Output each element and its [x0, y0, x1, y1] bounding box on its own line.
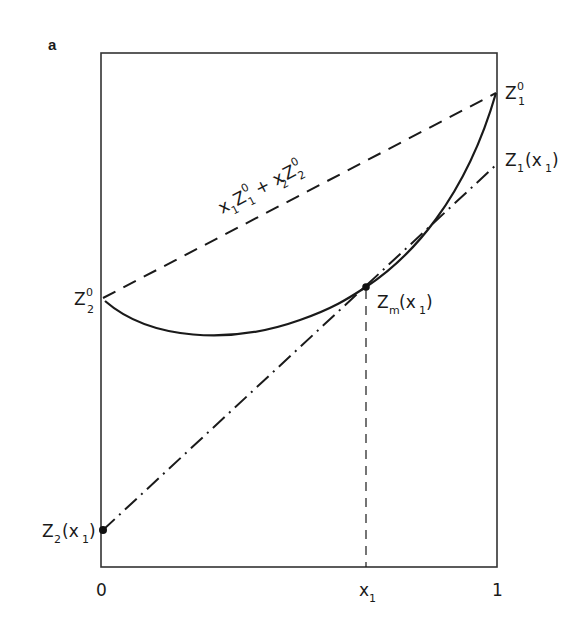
svg-text:0: 0	[517, 80, 524, 93]
svg-text:(x: (x	[525, 150, 542, 170]
property-curve	[105, 93, 496, 335]
svg-text:Z: Z	[505, 83, 517, 103]
ideal-line-label: x 1 Z 0 1 + x 2 Z 0 2	[213, 155, 308, 222]
svg-text:2: 2	[87, 303, 94, 316]
svg-text:(x: (x	[62, 521, 79, 541]
svg-text:(x: (x	[399, 292, 416, 312]
svg-text:0: 0	[86, 286, 93, 299]
zm-point	[362, 283, 370, 291]
svg-text:1: 1	[517, 162, 524, 175]
svg-text:1: 1	[545, 162, 552, 175]
z1-partial-label: Z 1 (x 1 )	[505, 150, 559, 175]
svg-text:Z: Z	[42, 521, 54, 541]
z2-partial-point	[99, 526, 107, 534]
plot-frame	[101, 53, 497, 567]
svg-text:): )	[89, 521, 96, 541]
svg-text:2: 2	[54, 533, 61, 546]
x-tick-0: 0	[96, 580, 107, 600]
svg-text:2: 2	[296, 168, 308, 183]
x-tick-1: 1	[492, 580, 503, 600]
zm-label: Z m (x 1 )	[377, 292, 433, 317]
svg-text:): )	[552, 150, 559, 170]
svg-text:x: x	[359, 580, 369, 600]
svg-text:1: 1	[518, 95, 525, 108]
svg-text:Z: Z	[74, 289, 86, 309]
diagram: a Z 0 1 Z 1 (x 1 ) Z 0 2 Z m (x 1 ) Z	[0, 0, 579, 623]
svg-text:Z: Z	[377, 292, 389, 312]
svg-text:): )	[426, 292, 433, 312]
panel-label: a	[48, 36, 57, 53]
z2-partial-label: Z 2 (x 1 )	[42, 521, 96, 546]
x-tick-x1: x 1	[359, 580, 376, 605]
z1-pure-label: Z 0 1	[505, 80, 525, 108]
svg-text:Z: Z	[505, 150, 517, 170]
tangent-line	[103, 165, 496, 530]
svg-text:1: 1	[82, 533, 89, 546]
svg-text:1: 1	[369, 592, 376, 605]
svg-text:1: 1	[419, 304, 426, 317]
z2-pure-label: Z 0 2	[74, 286, 94, 316]
ideal-mixing-line	[103, 93, 496, 298]
